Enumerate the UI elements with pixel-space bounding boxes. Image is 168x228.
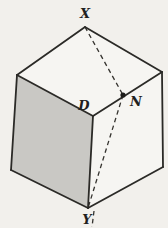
cube-figure: XDNY bbox=[0, 0, 168, 228]
dashed-stub-below-y bbox=[92, 211, 94, 227]
label-x: X bbox=[79, 6, 91, 21]
cube-diagram-svg: XDNY bbox=[0, 0, 168, 228]
label-d: D bbox=[77, 98, 90, 113]
cube-edge-right-bottomRight bbox=[162, 72, 163, 167]
point-n-dot bbox=[120, 92, 125, 97]
label-y: Y bbox=[82, 212, 93, 227]
label-n: N bbox=[129, 94, 143, 109]
